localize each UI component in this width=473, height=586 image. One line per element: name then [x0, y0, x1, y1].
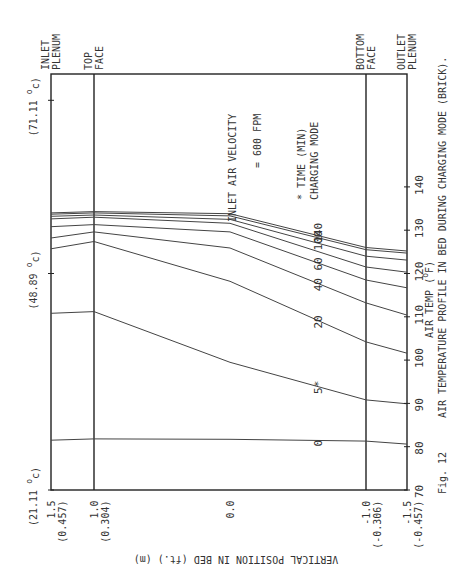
- region-label-line2: FACE: [366, 46, 377, 70]
- curve-label-5: 5*: [312, 381, 325, 394]
- curve-t5: [51, 312, 407, 404]
- region-label-line1: OUTLET: [396, 34, 407, 70]
- celsius-tick-label: (21.11 oc): [25, 467, 41, 526]
- time-note: * TIME (MIN): [296, 128, 307, 200]
- curve-label-140: 140: [312, 223, 325, 243]
- region-label-line1: BOTTOM: [355, 34, 366, 70]
- velocity-value: = 600 FPM: [252, 114, 263, 168]
- curve-label-40: 40: [312, 278, 325, 291]
- figure-number: Fig. 12: [437, 452, 448, 494]
- y-tick-label-140: 140: [413, 175, 426, 195]
- y-tick-label-100: 100: [413, 348, 426, 368]
- air-temperature-profile-chart: 708090100110120130140(21.11 oc)(48.89 oc…: [0, 0, 473, 586]
- region-label-line2: PLENUM: [407, 34, 418, 70]
- curve-label-20: 20: [312, 315, 325, 328]
- x-tick-label: 0.0: [225, 501, 236, 519]
- x-tick-label: -1.0: [361, 501, 372, 525]
- curve-label-0: 0: [312, 440, 325, 447]
- x-tick-sublabel: (0.304): [100, 501, 111, 543]
- y-tick-label-70: 70: [413, 485, 426, 498]
- celsius-tick-label: (48.89 oc): [25, 250, 41, 309]
- x-tick-label: 1.0: [89, 501, 100, 519]
- curve-t60: [51, 225, 407, 288]
- figure-caption: AIR TEMPERATURE PROFILE IN BED DURING CH…: [437, 57, 448, 418]
- y-tick-label-130: 130: [413, 218, 426, 238]
- curve-t20: [51, 242, 407, 354]
- x-axis-label: VERTICAL POSITION IN BED (ft.) (m): [134, 554, 339, 565]
- x-tick-label: -1.5: [402, 501, 413, 525]
- region-label-line2: PLENUM: [51, 34, 62, 70]
- curve-label-60: 60: [312, 257, 325, 270]
- x-tick-label: 1.5: [46, 501, 57, 519]
- y-tick-label-90: 90: [413, 398, 426, 411]
- x-tick-sublabel: (-0.306): [372, 501, 383, 549]
- region-label-line1: TOP: [83, 52, 94, 70]
- velocity-annotation: INLET AIR VELOCITY: [227, 114, 238, 222]
- chart-labels: 1.5(0.457)1.0(0.304)0.0-1.0(-0.306)-1.5(…: [40, 34, 448, 565]
- mode-note: CHARGING MODE: [309, 122, 320, 200]
- x-tick-sublabel: (0.457): [57, 501, 68, 543]
- curve-t0: [51, 439, 407, 444]
- region-label-line2: FACE: [94, 46, 105, 70]
- y-tick-label-80: 80: [413, 441, 426, 454]
- region-label-line1: INLET: [40, 40, 51, 70]
- y-axis-label: AIR TEMP (oF): [421, 261, 435, 338]
- celsius-tick-label: (71.11 oc): [25, 77, 41, 136]
- x-tick-sublabel: (-0.457): [413, 501, 424, 549]
- curves: [51, 212, 407, 445]
